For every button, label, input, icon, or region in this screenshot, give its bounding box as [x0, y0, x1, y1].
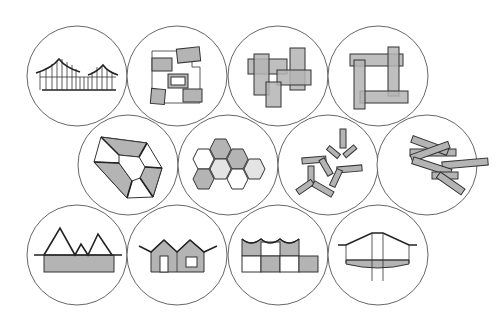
- mountains-base-icon: [27, 205, 127, 305]
- stacked-y-icon: [377, 115, 488, 215]
- wave-grid-icon: [228, 205, 328, 305]
- bridge-section-icon: [328, 205, 428, 305]
- twin-houses-icon: [127, 205, 227, 305]
- pinwheel-bars-icon: [328, 26, 428, 126]
- scattered-blocks-icon: [127, 26, 227, 126]
- pentagon-ring-icon: [78, 115, 178, 215]
- y-branches-icon: [278, 115, 378, 215]
- pictogram-grid: [0, 0, 503, 328]
- roofs-framework-icon: [27, 26, 127, 126]
- hexagon-cluster-icon: [178, 115, 278, 215]
- overlapping-rectangles-icon: [228, 26, 328, 126]
